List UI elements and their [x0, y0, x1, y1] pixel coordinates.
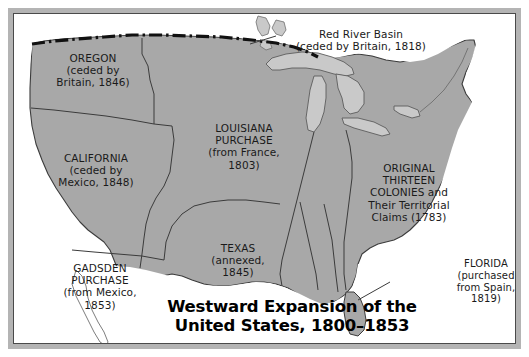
map-graphic — [14, 14, 516, 344]
map-frame-inner-border: OREGON (ceded by Britain, 1846) CALIFORN… — [13, 13, 516, 344]
westward-expansion-map-figure: OREGON (ceded by Britain, 1846) CALIFORN… — [0, 0, 529, 357]
map-frame: OREGON (ceded by Britain, 1846) CALIFORN… — [8, 8, 521, 349]
